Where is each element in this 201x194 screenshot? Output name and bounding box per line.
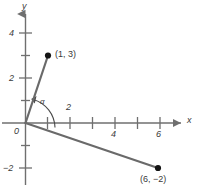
origin-label: 0: [14, 127, 19, 136]
data-point-6-neg2: [155, 165, 161, 171]
point-label-6-neg2: (6, −2): [140, 175, 166, 184]
y-tick-label-4: 4: [9, 29, 14, 38]
plot-canvas: [0, 0, 201, 194]
data-point-1-3: [45, 52, 51, 58]
angle-alpha-label: α: [40, 98, 45, 106]
point-label-1-3: (1, 3): [55, 50, 76, 59]
x-axis-label: x: [187, 116, 192, 125]
vector-to-point-1-3: [26, 56, 49, 124]
coordinate-plane-figure: y x 0 4 2 −2 2 4 6 α (1, 3) (6, −2): [0, 0, 201, 194]
x-tick-label-6: 6: [156, 130, 161, 139]
y-tick-label-2: 2: [9, 74, 14, 83]
y-tick-label-neg2: −2: [3, 164, 13, 173]
x-tick-label-4: 4: [111, 130, 116, 139]
x-tick-label-2: 2: [66, 103, 71, 112]
y-axis-label: y: [22, 2, 27, 11]
vector-to-point-6-neg2: [26, 123, 159, 168]
